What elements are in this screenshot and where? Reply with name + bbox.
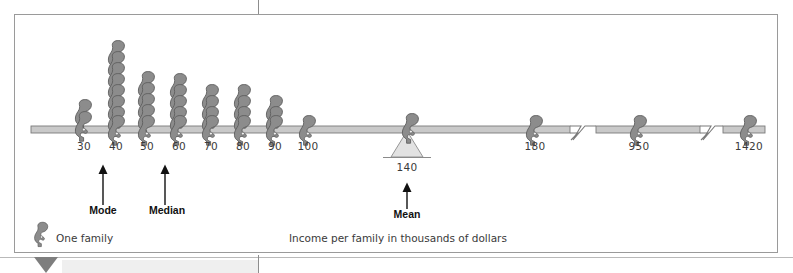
axis-tick-90: 90 (268, 140, 282, 152)
axis-tick-30: 30 (77, 140, 91, 152)
figure-frame: 30 40 50 60 70 80 90 100 140 180 950 142… (14, 14, 778, 253)
chart-caption: Income per family in thousands of dollar… (289, 232, 507, 244)
stack-50 (138, 72, 154, 146)
legend-family-figure-icon (35, 222, 48, 246)
axis-tick-180: 180 (524, 140, 545, 152)
page-horizontal-rule (0, 257, 793, 258)
mean-up-arrow-icon (403, 183, 412, 210)
triangle-pointer-icon (34, 257, 58, 273)
axis-tick-70: 70 (204, 140, 218, 152)
stack-60 (170, 74, 186, 146)
axis-tick-950: 950 (628, 140, 649, 152)
stack-90 (266, 96, 282, 146)
annotation-label-mode: Mode (89, 204, 116, 216)
axis-tick-40: 40 (109, 140, 123, 152)
median-up-arrow-icon (161, 165, 170, 206)
stack-80 (234, 85, 250, 146)
page-footer-band (62, 260, 258, 273)
legend-label: One family (56, 232, 113, 244)
axis-tick-100: 100 (297, 140, 318, 152)
axis-tick-1420: 1420 (735, 140, 763, 152)
stack-30 (75, 100, 91, 142)
axis-tick-60: 60 (172, 140, 186, 152)
axis-tick-80: 80 (236, 140, 250, 152)
axis-tick-140: 140 (396, 161, 417, 173)
axis-break-icon-1 (570, 126, 596, 140)
axis-break-icon-2 (700, 126, 723, 140)
annotation-label-median: Median (149, 204, 185, 216)
mode-up-arrow-icon (99, 165, 108, 206)
axis-tick-50: 50 (140, 140, 154, 152)
annotation-label-mean: Mean (394, 208, 421, 220)
page-column-rule-bottom (258, 255, 259, 273)
page-column-rule-top (258, 0, 259, 14)
pictogram-chart: 30 40 50 60 70 80 90 100 140 180 950 142… (15, 15, 779, 254)
stack-70 (202, 85, 218, 146)
